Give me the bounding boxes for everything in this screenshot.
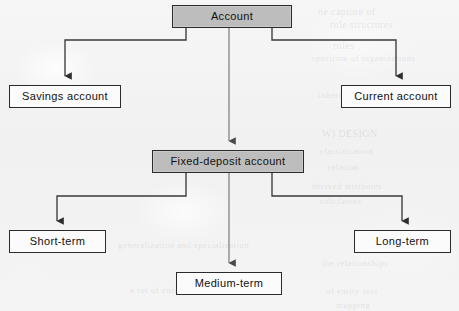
- diagram-canvas: ne capture ofrule structuresrulesspectru…: [0, 0, 459, 311]
- node-label-short-term: Short-term: [30, 236, 85, 247]
- node-label-medium-term: Medium-term: [195, 278, 264, 289]
- edge-fixed-deposit-to-long-term: [272, 173, 402, 221]
- node-label-account: Account: [211, 11, 253, 22]
- node-savings-account[interactable]: Savings account: [9, 85, 121, 108]
- node-medium-term[interactable]: Medium-term: [176, 272, 282, 295]
- node-current-account[interactable]: Current account: [341, 85, 451, 108]
- edge-account-to-savings: [65, 28, 186, 76]
- node-account[interactable]: Account: [172, 5, 292, 28]
- node-label-current-account: Current account: [354, 91, 438, 102]
- node-label-savings-account: Savings account: [22, 91, 108, 102]
- node-label-fixed-deposit-account: Fixed-deposit account: [171, 156, 286, 167]
- node-label-long-term: Long-term: [376, 236, 429, 247]
- edge-fixed-deposit-to-short-term: [57, 173, 186, 221]
- node-long-term[interactable]: Long-term: [354, 230, 451, 253]
- edge-account-to-current: [272, 28, 396, 76]
- node-short-term[interactable]: Short-term: [9, 230, 106, 253]
- node-fixed-deposit-account[interactable]: Fixed-deposit account: [152, 150, 304, 173]
